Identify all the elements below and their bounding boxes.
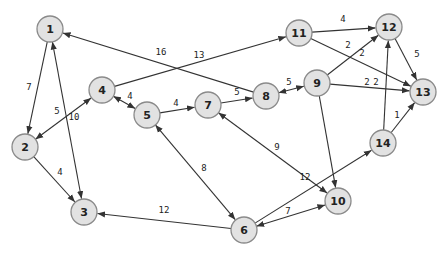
node-label: 6 — [240, 224, 248, 237]
edge-weight-label: 2 — [359, 48, 364, 58]
edge-7-8 — [221, 98, 253, 103]
edge-14-12 — [384, 40, 389, 130]
edge-weight-label: 13 — [194, 50, 205, 60]
node-label: 14 — [375, 137, 391, 150]
edge-weight-label: 4 — [127, 91, 132, 101]
node-label: 4 — [98, 84, 106, 97]
edge-weight-label: 2 — [345, 40, 350, 50]
edge-7-10 — [218, 113, 327, 193]
node-10: 10 — [325, 188, 351, 214]
node-label: 9 — [313, 77, 321, 90]
node-11: 11 — [286, 20, 312, 46]
edge-weight-label: 1 — [394, 110, 399, 120]
edge-weight-label: 4 — [340, 14, 345, 24]
node-9: 9 — [304, 70, 330, 96]
node-label: 3 — [80, 206, 88, 219]
node-6: 6 — [231, 217, 257, 243]
node-label: 12 — [381, 21, 396, 34]
node-label: 7 — [204, 99, 212, 112]
node-label: 5 — [143, 109, 151, 122]
edge-11-12 — [312, 28, 376, 32]
edge-weight-label: 5 — [286, 77, 291, 87]
node-label: 1 — [46, 23, 54, 36]
edge-weight-label: 8 — [201, 163, 206, 173]
node-3: 3 — [71, 199, 97, 225]
edge-weight-label: 7 — [285, 206, 290, 216]
edge-4-11 — [114, 37, 286, 87]
node-layer: 1234567891011121314 — [12, 14, 436, 243]
edge-2-4 — [35, 98, 91, 139]
node-14: 14 — [370, 130, 396, 156]
edge-6-3 — [97, 214, 231, 229]
edge-6-14 — [255, 150, 372, 223]
node-8: 8 — [253, 83, 279, 109]
edge-weight-label: 4 — [57, 167, 62, 177]
edge-2-3 — [34, 157, 75, 202]
node-13: 13 — [410, 79, 436, 105]
edge-weight-label: 7 — [26, 82, 31, 92]
edge-9-13 — [330, 84, 410, 91]
node-7: 7 — [195, 92, 221, 118]
edge-weight-label: 10 — [69, 112, 80, 122]
node-label: 10 — [330, 195, 346, 208]
edge-12-13 — [395, 39, 417, 81]
node-12: 12 — [376, 14, 402, 40]
node-1: 1 — [37, 16, 63, 42]
edge-weight-label: 5 — [54, 106, 59, 116]
node-2: 2 — [12, 134, 38, 160]
edge-label-layer: 710165413448125952242521127 — [26, 14, 419, 216]
edge-weight-label: 12 — [300, 172, 311, 182]
node-label: 11 — [291, 27, 306, 40]
graph-canvas: 710165413448125952242521127 123456789101… — [0, 0, 441, 256]
edge-weight-label: 4 — [173, 98, 178, 108]
edge-weight-label: 12 — [159, 205, 170, 215]
edge-9-12 — [327, 35, 378, 75]
edge-weight-label: 5 — [414, 49, 419, 59]
edge-8-9 — [279, 86, 304, 92]
edge-weight-label: 5 — [234, 87, 239, 97]
node-label: 13 — [415, 86, 430, 99]
edge-5-7 — [160, 107, 195, 113]
edge-weight-label: 16 — [156, 47, 167, 57]
node-label: 2 — [21, 141, 29, 154]
node-5: 5 — [134, 102, 160, 128]
edge-weight-label: 2 — [373, 77, 378, 87]
edge-weight-label: 9 — [274, 142, 279, 152]
node-label: 8 — [262, 90, 270, 103]
node-4: 4 — [89, 77, 115, 103]
edge-weight-label: 2 — [364, 77, 369, 87]
